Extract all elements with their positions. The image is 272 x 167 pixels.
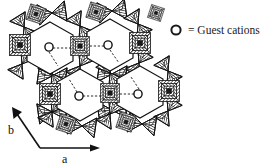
axis-b-line bbox=[17, 114, 40, 148]
guest-cation-icon bbox=[134, 90, 142, 98]
legend-circle-icon bbox=[171, 25, 180, 34]
guest-cation-icon bbox=[45, 43, 53, 51]
guest-cation-icon bbox=[104, 41, 112, 49]
square-polyhedron bbox=[130, 33, 151, 54]
axis-a-label: a bbox=[62, 152, 68, 166]
structure-diagram: = Guest cations a b bbox=[0, 0, 272, 167]
square-polyhedron bbox=[71, 37, 90, 56]
legend-label: = Guest cations bbox=[188, 24, 260, 36]
square-polyhedron bbox=[147, 4, 164, 21]
axis-a-arrowhead bbox=[90, 145, 100, 152]
axis-b-label: b bbox=[8, 123, 14, 137]
legend: = Guest cations bbox=[171, 24, 260, 36]
square-polyhedron bbox=[40, 84, 61, 105]
square-polyhedron bbox=[10, 35, 31, 56]
guest-cation-icon bbox=[75, 92, 83, 100]
polyhedra-square-nodes bbox=[10, 2, 180, 134]
square-polyhedron bbox=[101, 84, 120, 103]
square-polyhedron bbox=[159, 81, 180, 102]
axis-b-arrowhead bbox=[12, 107, 22, 119]
figure-container: = Guest cations a b bbox=[0, 0, 272, 167]
framework-lattice bbox=[8, 0, 182, 138]
